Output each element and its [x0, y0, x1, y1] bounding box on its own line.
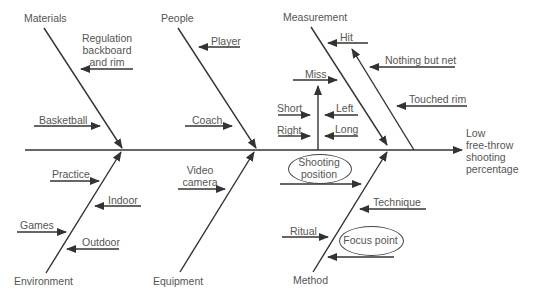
- effect-text-line: Low: [466, 127, 519, 139]
- category-materials: Materials: [24, 12, 67, 24]
- cause-video-camera: Video camera: [175, 164, 225, 188]
- effect-text-line: percentage: [466, 163, 519, 175]
- cause-games: Games: [20, 219, 54, 231]
- category-method: Method: [293, 274, 328, 286]
- cause-short: Short: [277, 102, 302, 114]
- cause-miss: Miss: [305, 68, 327, 80]
- cause-ritual: Ritual: [290, 225, 317, 237]
- category-environment: Environment: [14, 275, 73, 287]
- category-equipment: Equipment: [153, 275, 203, 287]
- cause-right: Right: [277, 124, 302, 136]
- cause-nothing-but-net: Nothing but net: [385, 54, 456, 66]
- cause-left: Left: [336, 102, 354, 114]
- cause-basketball: Basketball: [39, 114, 87, 126]
- cause-outdoor: Outdoor: [82, 236, 120, 248]
- cause-shooting-position: Shooting position: [288, 156, 350, 180]
- cause-touched-rim: Touched rim: [409, 93, 466, 105]
- cause-text-line: Shooting: [288, 156, 350, 168]
- category-measurement: Measurement: [283, 11, 347, 23]
- category-people: People: [161, 12, 194, 24]
- effect-label: Low free-throw shooting percentage: [466, 127, 519, 175]
- cause-coach: Coach: [192, 114, 222, 126]
- cause-text-line: and rim: [76, 56, 138, 68]
- cause-text-line: position: [288, 168, 350, 180]
- effect-text-line: free-throw: [466, 139, 519, 151]
- cause-regulation-backboard: Regulation backboard and rim: [76, 32, 138, 68]
- cause-practice: Practice: [52, 168, 90, 180]
- fishbone-diagram: Materials People Measurement Environment…: [0, 0, 534, 301]
- cause-text-line: camera: [175, 176, 225, 188]
- cause-hit: Hit: [340, 31, 353, 43]
- cause-text-line: Video: [175, 164, 225, 176]
- cause-technique: Technique: [373, 196, 421, 208]
- cause-player: Player: [211, 35, 241, 47]
- cause-text-line: backboard: [76, 44, 138, 56]
- cause-text-line: Regulation: [76, 32, 138, 44]
- effect-text-line: shooting: [466, 151, 519, 163]
- cause-long: Long: [335, 123, 358, 135]
- cause-indoor: Indoor: [108, 194, 138, 206]
- cause-focus-point: Focus point: [339, 234, 402, 246]
